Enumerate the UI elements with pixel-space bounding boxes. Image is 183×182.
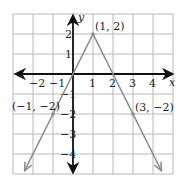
y-tick-label: 2 — [65, 28, 72, 41]
y-tick-label: 1 — [65, 48, 72, 61]
y-axis-label: y — [77, 11, 85, 24]
x-tick-label: 1 — [89, 77, 96, 90]
x-tick-label: 3 — [129, 77, 136, 90]
point-label: (−1, −2) — [12, 100, 60, 113]
axes: xy — [16, 11, 176, 172]
coordinate-plane: xy −2−1123421−1−2−3−4 (1, 2)(−1, −2)(3, … — [0, 0, 183, 182]
y-tick-label: −2 — [60, 108, 76, 121]
x-tick-label: −2 — [29, 77, 45, 90]
y-tick-label: −3 — [60, 128, 76, 141]
x-axis-label: x — [169, 76, 176, 89]
point-label: (3, −2) — [135, 101, 174, 114]
y-tick-label: −4 — [60, 148, 76, 161]
point-label: (1, 2) — [95, 20, 125, 33]
x-tick-label: 4 — [149, 77, 156, 90]
grid-lines — [13, 14, 173, 174]
